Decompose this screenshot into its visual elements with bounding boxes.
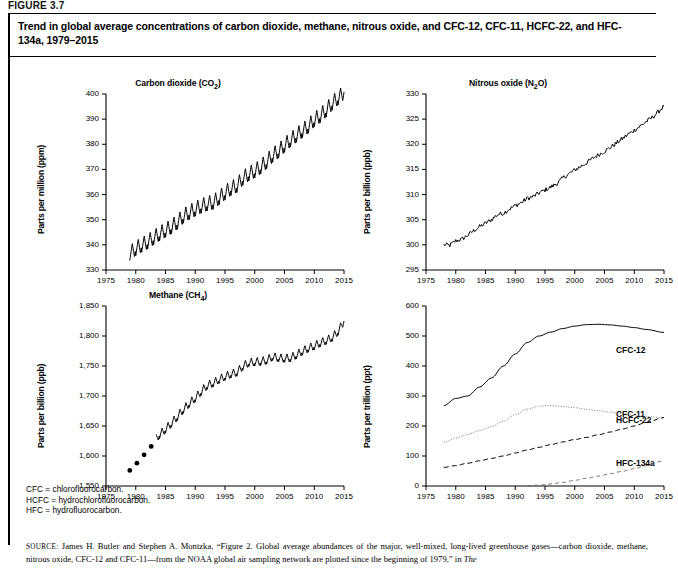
series-line: [156, 321, 344, 440]
chart-panel-methane: Methane (CH4)Parts per billion (ppb)1,55…: [28, 290, 328, 485]
data-point: [127, 468, 132, 473]
figure-source: SOURCE: James H. Butler and Stephen A. M…: [26, 541, 648, 565]
figure-label: FIGURE 3.7: [8, 0, 64, 11]
series-line: [444, 418, 664, 468]
source-text: James H. Butler and Stephen A. Montzka, …: [26, 541, 648, 564]
chart-svg: [358, 78, 658, 268]
figure-title: Trend in global average concentrations o…: [18, 20, 646, 47]
chart-svg: [28, 290, 328, 485]
x-tick-label: 2015: [326, 276, 362, 285]
source-italic: The: [464, 554, 477, 564]
series-line: [444, 105, 664, 247]
series-line: [444, 406, 664, 443]
note-line-2: HFC = hydrofluorocarbon.: [26, 505, 150, 516]
note-line-0: CFC = chlorofluorocarbon.: [26, 484, 150, 495]
data-point: [142, 452, 147, 457]
x-tick-label: 2015: [646, 276, 678, 285]
chart-panel-carbon-dioxide: Carbon dioxide (CO2)Parts per million (p…: [28, 78, 328, 268]
series-line: [444, 324, 664, 405]
chart-svg: [358, 290, 658, 485]
chart-panel-halocarbons: Parts per trillion (ppt)0100200300400500…: [358, 290, 658, 485]
x-tick-label: 2015: [646, 492, 678, 501]
chart-panel-nitrous-oxide: Nitrous oxide (N2O)Parts per billion (pp…: [358, 78, 658, 268]
figure-notes: CFC = chlorofluorocarbon.HCFC = hydrochl…: [26, 484, 150, 516]
data-point: [149, 444, 154, 449]
source-prefix: SOURCE:: [26, 543, 58, 551]
chart-svg: [28, 78, 328, 268]
series-line: [130, 88, 344, 260]
x-tick-label: 2015: [326, 492, 362, 501]
left-rule: [8, 13, 10, 545]
note-line-1: HCFC = hydrochlorofluorocarbon.: [26, 495, 150, 506]
series-line: [527, 461, 664, 486]
data-point: [135, 461, 140, 466]
